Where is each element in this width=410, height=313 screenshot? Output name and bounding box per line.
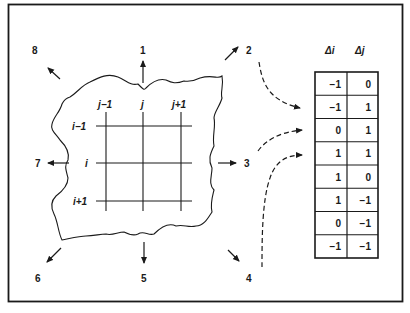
table-cell-dj: −1 <box>360 195 372 206</box>
table-cell-di: −1 <box>330 102 342 113</box>
table-cell-dj: −1 <box>360 241 372 252</box>
direction-arrow-8 <box>48 68 60 79</box>
direction-label-6: 6 <box>35 273 41 284</box>
direction-label-5: 5 <box>141 273 147 284</box>
delta-table: −10−110111101−10−1−1−1 <box>315 72 378 258</box>
table-cell-di: 0 <box>335 125 341 136</box>
table-cell-di: 1 <box>335 172 341 183</box>
table-cell-di: 1 <box>335 195 341 206</box>
table-cell-dj: 1 <box>365 125 371 136</box>
direction-arrow-6 <box>47 248 61 262</box>
direction-label-4: 4 <box>246 273 252 284</box>
direction-label-1: 1 <box>140 45 146 56</box>
direction-label-8: 8 <box>32 45 38 56</box>
grid-row-label: i <box>85 158 88 169</box>
mapping-arrow-2 <box>259 62 300 108</box>
grid-row-label: i−1 <box>72 121 87 132</box>
table-cell-di: −1 <box>330 79 342 90</box>
direction-label-3: 3 <box>244 158 250 169</box>
table-cell-dj: 0 <box>365 79 371 90</box>
mapping-arrow-4 <box>262 155 302 267</box>
region-outline <box>52 75 223 240</box>
direction-label-7: 7 <box>35 158 41 169</box>
table-cell-dj: 1 <box>365 148 371 159</box>
table-header-di: Δi <box>324 45 335 56</box>
table-cell-dj: −1 <box>360 218 372 229</box>
table-cell-dj: 0 <box>365 172 371 183</box>
grid-col-label: j−1 <box>96 99 113 110</box>
grid-row-label: i+1 <box>73 196 88 207</box>
table-cell-di: 1 <box>335 148 341 159</box>
table-cell-di: −1 <box>330 241 342 252</box>
direction-arrow-4 <box>228 250 239 261</box>
direction-label-2: 2 <box>246 45 252 56</box>
grid-col-label: j+1 <box>170 99 187 110</box>
table-cell-dj: 1 <box>365 102 371 113</box>
table-header-dj: Δj <box>354 45 365 56</box>
grid-col-label: j <box>139 99 144 110</box>
direction-arrow-2 <box>225 47 238 60</box>
table-cell-di: 0 <box>335 218 341 229</box>
mapping-arrow-3 <box>258 130 302 151</box>
diagram-canvas: j−1 j j+1 i−1 i i+1 1 2 3 4 5 6 7 8 Δi Δ… <box>0 0 410 313</box>
